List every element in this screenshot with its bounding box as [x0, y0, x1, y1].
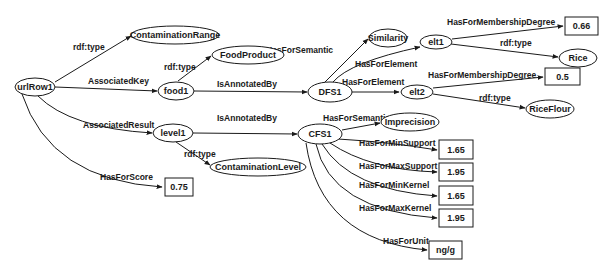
- node-food-product[interactable]: FoodProduct: [212, 46, 284, 64]
- edge-label-membership-degree-2: HasForMembershipDegree: [428, 70, 536, 80]
- edge-label-rdf-type-1: rdf:type: [73, 42, 105, 52]
- node-level1[interactable]: level1: [153, 124, 193, 142]
- edge-label-has-for-element-1: HasForElement: [355, 59, 418, 69]
- node-elt2[interactable]: elt2: [401, 85, 433, 99]
- edge-label-max-kernel: HasForMaxKernel: [359, 203, 431, 213]
- edge-label-is-annotated-by-2: IsAnnotatedBy: [217, 113, 277, 123]
- node-value-05[interactable]: 0.5: [545, 68, 580, 85]
- node-label-contamination-range: ContaminationRange: [130, 30, 221, 40]
- node-label-min-support: 1.65: [447, 145, 465, 155]
- node-contamination-level[interactable]: ContaminationLevel: [210, 158, 306, 176]
- node-similarity[interactable]: Similarity: [368, 29, 409, 47]
- node-label-similarity: Similarity: [368, 33, 409, 43]
- node-label-elt1: elt1: [428, 37, 444, 47]
- node-label-value-05: 0.5: [556, 72, 569, 82]
- node-label-urlrow1: urlRow1: [17, 82, 53, 92]
- node-min-support[interactable]: 1.65: [439, 140, 473, 159]
- edge-label-rdf-type-4: rdf:type: [479, 93, 511, 103]
- edge-label-has-for-score: HasForScore: [100, 172, 153, 182]
- edge-label-rdf-type-5: rdf:type: [184, 149, 216, 159]
- node-label-contamination-level: ContaminationLevel: [215, 162, 301, 172]
- edge-label-associated-result: AssociatedResult: [83, 120, 154, 130]
- edge-is-annotated-by-dfs1: [194, 91, 307, 92]
- node-label-value-075: 0.75: [170, 182, 188, 192]
- edge-label-associated-key: AssociatedKey: [88, 76, 149, 86]
- node-label-max-support: 1.95: [447, 167, 465, 177]
- node-label-cfs1: CFS1: [308, 129, 331, 139]
- node-label-value-066: 0.66: [573, 21, 591, 31]
- node-contamination-range[interactable]: ContaminationRange: [130, 26, 221, 44]
- node-label-food1: food1: [164, 86, 189, 96]
- node-imprecision[interactable]: Imprecision: [381, 113, 439, 131]
- edge-has-for-semantic-imprecision: [342, 123, 380, 130]
- edge-label-membership-degree-1: HasForMembershipDegree: [447, 17, 555, 27]
- node-label-food-product: FoodProduct: [220, 50, 276, 60]
- node-min-kernel[interactable]: 1.65: [439, 186, 473, 205]
- node-rice-flour[interactable]: RiceFlour: [526, 100, 574, 118]
- edge-has-for-unit: [306, 143, 427, 250]
- node-unit[interactable]: ng/g: [429, 241, 462, 259]
- node-rice[interactable]: Rice: [559, 49, 597, 67]
- node-max-kernel[interactable]: 1.95: [439, 209, 473, 227]
- node-urlrow1[interactable]: urlRow1: [15, 78, 55, 96]
- edge-label-has-for-unit: HasForUnit: [383, 236, 429, 246]
- node-dfs1[interactable]: DFS1: [308, 82, 352, 102]
- node-label-unit: ng/g: [436, 245, 455, 255]
- node-cfs1[interactable]: CFS1: [298, 124, 342, 144]
- node-label-rice: Rice: [568, 53, 587, 63]
- node-max-support[interactable]: 1.95: [439, 163, 473, 181]
- node-value-066[interactable]: 0.66: [565, 17, 598, 35]
- edge-label-max-support: HasForMaxSupport: [359, 161, 438, 171]
- node-label-min-kernel: 1.65: [447, 191, 465, 201]
- edge-label-has-for-semantic-2: HasForSemantic: [323, 113, 390, 123]
- edge-label-rdf-type-3: rdf:type: [500, 38, 532, 48]
- edge-label-is-annotated-by-1: IsAnnotatedBy: [217, 79, 277, 89]
- node-label-rice-flour: RiceFlour: [529, 104, 571, 114]
- edge-label-has-for-element-2: HasForElement: [342, 77, 405, 87]
- edge-label-min-kernel: HasForMinKernel: [359, 180, 429, 190]
- edges: rdf:type AssociatedKey rdf:type IsAnnota…: [22, 17, 563, 250]
- node-food1[interactable]: food1: [158, 82, 194, 100]
- node-value-075[interactable]: 0.75: [165, 178, 193, 196]
- node-label-elt2: elt2: [409, 87, 425, 97]
- node-label-imprecision: Imprecision: [385, 117, 436, 127]
- edge-label-min-support: HasForMinSupport: [359, 138, 436, 148]
- edge-label-rdf-type-2: rdf:type: [164, 62, 196, 72]
- node-label-max-kernel: 1.95: [447, 213, 465, 223]
- rdf-graph-diagram: rdf:type AssociatedKey rdf:type IsAnnota…: [0, 0, 610, 269]
- node-label-level1: level1: [160, 128, 185, 138]
- node-elt1[interactable]: elt1: [420, 35, 452, 49]
- edge-associated-key: [55, 87, 157, 91]
- node-label-dfs1: DFS1: [318, 87, 341, 97]
- edge-is-annotated-by-cfs1: [193, 133, 297, 134]
